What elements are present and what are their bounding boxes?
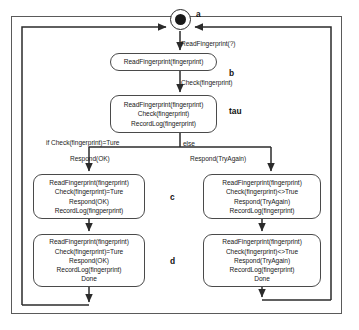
- state-line: Respond(OK): [69, 197, 109, 206]
- edge-label-check-fingerprint: Check(fingerprint): [181, 79, 233, 87]
- annotation-label-tau: tau: [229, 106, 242, 116]
- state-line: RecordLog(fingerprint): [230, 265, 295, 274]
- annotation-label-b: b: [229, 68, 234, 78]
- annotation-label-d: d: [170, 256, 175, 266]
- state-line: ReadFingerprint(fingerprint): [222, 237, 302, 246]
- state-node-c-ok[interactable]: ReadFingerprint(fingerprint) Check(finge…: [33, 174, 145, 219]
- diagram-canvas: ReadFingerprint(fingerprint) ReadFingerp…: [0, 0, 359, 330]
- state-line: RecordLog(fingerprint): [131, 119, 196, 128]
- state-line: RecordLog(fingperprint): [55, 206, 124, 215]
- state-node-d-ok-done[interactable]: ReadFingerprint(fingerprint) Check(finge…: [33, 234, 145, 287]
- state-line: Respond(TryAgain): [234, 256, 290, 265]
- state-line: Check(fingerprint)<>True: [226, 187, 298, 196]
- initial-state-node[interactable]: [170, 9, 191, 30]
- initial-state-dot: [175, 14, 186, 25]
- state-node-d-tryagain-done[interactable]: ReadFingerprint(fingerprint) Check(finge…: [203, 234, 321, 287]
- state-node-tau[interactable]: ReadFingerprint(fingerprint) Check(finge…: [110, 95, 217, 133]
- state-line: Check(fingerprint): [138, 109, 190, 118]
- state-line: ReadFingerprint(fingerprint): [222, 178, 302, 187]
- state-line: Check(fingerprint)=Ture: [55, 187, 123, 196]
- edge-label-read-fingerprint-query: ReadFingerprint(?): [181, 40, 235, 48]
- state-line: RecordLog(fingerprint): [57, 265, 122, 274]
- state-line: Respond(TryAgain): [234, 197, 290, 206]
- state-line: ReadFingerprint(fingerprint): [124, 57, 204, 66]
- edge-label-guard-else: else: [183, 140, 195, 148]
- edge-label-respond-ok: Respond(OK): [70, 155, 110, 163]
- state-line: Done: [81, 274, 97, 283]
- edge-label-respond-tryagain: Respond(TryAgain): [190, 155, 246, 163]
- state-line: RecordLog(fingerprint): [230, 206, 295, 215]
- annotation-label-c: c: [170, 192, 175, 202]
- state-line: Respond(OK): [69, 256, 109, 265]
- state-line: ReadFingerprint(fingerprint): [49, 237, 129, 246]
- state-node-read[interactable]: ReadFingerprint(fingerprint): [110, 53, 217, 71]
- state-line: Done: [254, 274, 270, 283]
- state-line: ReadFingerprint(fingerprint): [124, 100, 204, 109]
- state-node-c-tryagain[interactable]: ReadFingerprint(fingerprint) Check(finge…: [203, 174, 321, 219]
- edge-label-guard-if: if Check(fingerprint)=Ture: [46, 139, 119, 147]
- state-line: Check(fingerprint)<>True: [226, 247, 298, 256]
- annotation-label-a: a: [196, 9, 201, 19]
- state-line: Check(fingerprint)=Ture: [55, 247, 123, 256]
- state-line: ReadFingerprint(fingerprint): [49, 178, 129, 187]
